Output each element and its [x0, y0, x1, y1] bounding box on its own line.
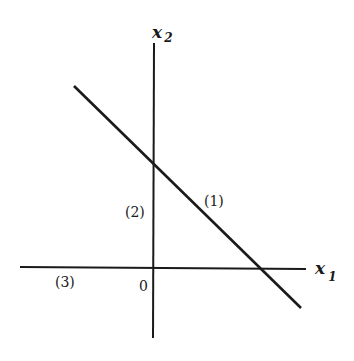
constraint-line-1	[74, 86, 301, 308]
x2-axis	[153, 43, 154, 338]
origin-label: 0	[139, 278, 148, 294]
x1-axis-label: x1	[314, 258, 337, 284]
x2-axis-label: x2	[151, 22, 173, 45]
label-2: (2)	[125, 204, 145, 220]
coordinate-diagram: x2 x1 (1) (2) (3) 0	[0, 0, 354, 361]
label-3: (3)	[55, 274, 75, 290]
label-1: (1)	[204, 193, 224, 209]
x1-axis	[20, 267, 306, 269]
